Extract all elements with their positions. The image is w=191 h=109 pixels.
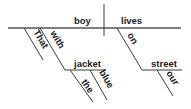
preposition-on-word: on <box>125 30 141 46</box>
preposition-with-word: with <box>48 28 68 51</box>
modifier-blue-word: blue <box>97 68 116 90</box>
sentence-diagram: boy lives That with jacket the blue on s… <box>0 0 191 109</box>
subject-word: boy <box>74 15 92 26</box>
modifier-the-word: the <box>79 77 96 95</box>
predicate-word: lives <box>121 15 142 26</box>
modifier-our-word: our <box>164 68 182 87</box>
object-jacket-word: jacket <box>73 58 102 69</box>
